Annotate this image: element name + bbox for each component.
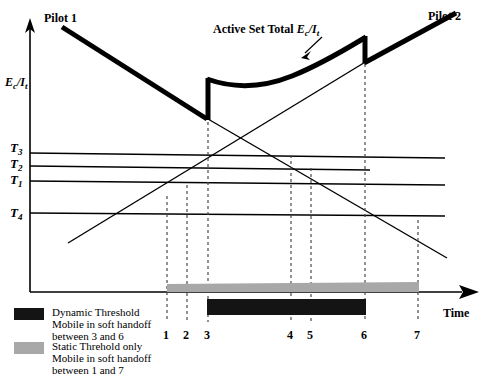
threshold-line-T2 [30, 166, 370, 170]
legend-dynamic-line1: Dynamic Threshold [52, 306, 140, 318]
legend-group: Dynamic Threshold Mobile in soft handoff… [14, 306, 151, 376]
active-set-total-figure: Ec/It T3 T2 T1 T4 [0, 0, 492, 383]
pilot1-label: Pilot 1 [44, 11, 77, 25]
annotation-pointer-line [305, 37, 322, 53]
active-set-total-annotation: Active Set Total Ec/It [213, 22, 322, 60]
event-tick-label-7: 7 [414, 328, 420, 342]
static-threshold-swatch [14, 342, 44, 354]
legend-static-line1: Static Threhold only [52, 340, 143, 352]
threshold-label-T1: T1 [10, 172, 22, 189]
static-threshold-bar [167, 282, 419, 292]
y-axis-label-sub-t: t [25, 81, 28, 91]
y-axis-label: Ec/It [4, 75, 28, 91]
dynamic-threshold-bar [207, 299, 366, 315]
active-set-total-label: Active Set Total Ec/It [213, 22, 320, 38]
event-tick-label-2: 2 [183, 328, 189, 342]
threshold-label-T4: T4 [10, 205, 23, 222]
y-axis-label-numerator: E [4, 75, 13, 89]
threshold-line-T1 [30, 181, 445, 185]
legend-dynamic-line2: Mobile in soft handoff [52, 318, 151, 330]
active-set-total-curve [207, 37, 366, 86]
pilot-lines-group [68, 61, 447, 258]
time-axis-label: Time [443, 306, 470, 320]
event-tick-label-5: 5 [307, 328, 313, 342]
threshold-label-T2: T2 [10, 156, 23, 173]
axes-group [25, 18, 479, 299]
threshold-label-T3: T3 [10, 140, 23, 157]
svg-text:Ec/It: Ec/It [4, 75, 28, 91]
legend-static-line3: between 1 and 7 [52, 364, 124, 376]
event-tick-labels-group: 1 2 3 4 5 6 7 [163, 328, 420, 342]
threshold-line-T4 [30, 213, 445, 216]
legend-entry-static: Static Threhold only Mobile in soft hand… [14, 340, 151, 376]
pilot1-decaying-line [208, 119, 447, 258]
legend-entry-dynamic: Dynamic Threshold Mobile in soft handoff… [14, 306, 151, 342]
handoff-bars-group [167, 282, 419, 315]
event-tick-label-1: 1 [163, 328, 169, 342]
dynamic-threshold-swatch [14, 308, 44, 320]
threshold-labels-group: T3 T2 T1 T4 [10, 140, 23, 222]
threshold-lines-group [30, 153, 445, 216]
event-tick-label-3: 3 [204, 328, 210, 342]
diagram-canvas: Ec/It T3 T2 T1 T4 [0, 0, 492, 383]
threshold-line-T3 [30, 153, 445, 158]
pilot1-thick-segment [62, 27, 207, 119]
event-tick-label-4: 4 [287, 328, 293, 342]
legend-static-line2: Mobile in soft handoff [52, 352, 151, 364]
event-tick-label-6: 6 [361, 328, 367, 342]
pilot2-label: Pilot 2 [428, 9, 461, 23]
